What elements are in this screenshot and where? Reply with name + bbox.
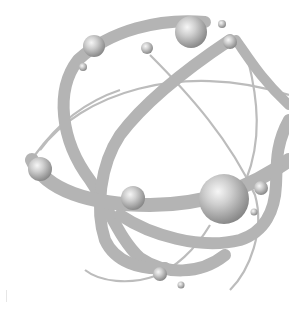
sphere-icon xyxy=(79,63,87,71)
nucleus-sphere-icon xyxy=(199,174,249,224)
sphere-icon xyxy=(254,181,268,195)
sphere-icon xyxy=(251,209,258,216)
faint-mark xyxy=(6,290,7,302)
sphere-icon xyxy=(141,42,153,54)
sphere-icon xyxy=(83,35,105,57)
sphere-icon xyxy=(175,16,207,48)
sphere-icon xyxy=(121,186,145,210)
sphere-icon xyxy=(153,267,167,281)
sphere-icon xyxy=(218,20,226,28)
sphere-icon xyxy=(28,157,52,181)
atom-illustration: Grayscale atom model with intersecting o… xyxy=(0,0,289,310)
atom-graphic xyxy=(0,0,289,310)
sphere-icon xyxy=(178,282,185,289)
sphere-icon xyxy=(223,35,237,49)
